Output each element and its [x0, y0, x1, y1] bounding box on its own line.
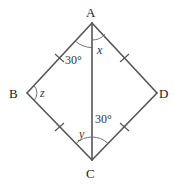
- angle-label-CAD: x: [96, 43, 103, 57]
- vertex-label-A: A: [86, 5, 96, 20]
- angle-arc-BAC: [75, 41, 92, 48]
- angle-arc-ACD: [92, 137, 108, 144]
- angle-label-BAC: 30°: [65, 53, 82, 67]
- vertex-label-B: B: [9, 86, 18, 101]
- vertex-label-D: D: [159, 86, 168, 101]
- angle-label-ACD: 30°: [95, 112, 112, 126]
- vertex-label-C: C: [86, 166, 95, 181]
- angle-label-BCA: y: [78, 127, 85, 141]
- angle-arc-ABC: [34, 86, 37, 101]
- angle-label-ABC: z: [39, 86, 45, 100]
- rhombus-diagram: A B C D 30° x z y 30°: [0, 0, 174, 184]
